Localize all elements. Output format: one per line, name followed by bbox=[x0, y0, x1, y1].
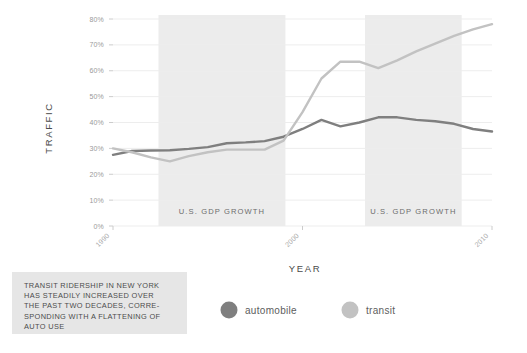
x-tick-label: 1990 bbox=[94, 232, 111, 249]
x-axis-title: YEAR bbox=[289, 263, 321, 274]
chart-legend: automobiletransit bbox=[221, 302, 396, 319]
gdp-growth-band bbox=[158, 15, 285, 226]
y-tick-label: 30% bbox=[89, 145, 104, 152]
legend-label-automobile[interactable]: automobile bbox=[245, 305, 297, 316]
gdp-growth-band-label: U.S. GDP GROWTH bbox=[179, 207, 265, 216]
caption-box: TRANSIT RIDERSHIP IN NEW YORK HAS STEADI… bbox=[12, 272, 187, 334]
y-tick-label: 20% bbox=[89, 171, 104, 178]
y-tick-label: 70% bbox=[89, 41, 104, 48]
y-tick-label: 10% bbox=[89, 197, 104, 204]
x-tick-label: 2010 bbox=[473, 232, 490, 249]
legend-swatch-automobile[interactable] bbox=[221, 302, 238, 319]
legend-swatch-transit[interactable] bbox=[342, 302, 359, 319]
y-tick-label: 40% bbox=[89, 119, 104, 126]
caption-text: TRANSIT RIDERSHIP IN NEW YORK HAS STEADI… bbox=[24, 281, 176, 332]
y-axis-ticks: 80%70%60%50%40%30%20%10%0% bbox=[89, 16, 113, 230]
y-tick-label: 0% bbox=[93, 223, 104, 230]
y-tick-label: 50% bbox=[89, 93, 104, 100]
y-tick-label: 60% bbox=[89, 67, 104, 74]
gdp-growth-band-label: U.S. GDP GROWTH bbox=[370, 207, 456, 216]
y-tick-label: 80% bbox=[89, 16, 104, 23]
band-labels: U.S. GDP GROWTHU.S. GDP GROWTH bbox=[179, 207, 457, 216]
y-axis-title: TRAFFIC bbox=[43, 102, 54, 153]
legend-label-transit[interactable]: transit bbox=[366, 305, 395, 316]
x-tick-label: 2000 bbox=[284, 232, 301, 249]
x-axis-ticks: 199020002010 bbox=[94, 226, 492, 248]
